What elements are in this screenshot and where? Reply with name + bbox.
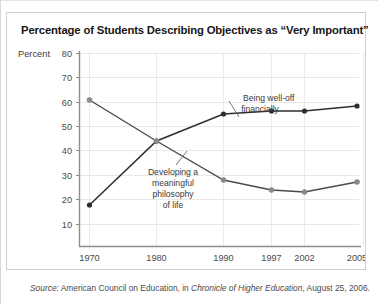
annotation-philosophy-line4: of life	[163, 200, 184, 210]
y-tick-label-20: 20	[62, 195, 72, 205]
source-note: Source: American Council on Education, i…	[30, 283, 370, 293]
x-tick-label-2005: 2005	[347, 253, 365, 263]
annotation-philosophy-line3: philosophy	[152, 189, 194, 199]
horizontal-gridlines	[79, 54, 359, 225]
y-tick-label-30: 30	[62, 171, 72, 181]
y-tick-label-70: 70	[62, 73, 72, 83]
x-tick-label-1997: 1997	[261, 253, 281, 263]
annotation-philosophy-line2: meaningful	[152, 178, 194, 188]
source-body-2: , August 25, 2006.	[302, 283, 370, 293]
source-label: Source:	[30, 283, 59, 293]
y-axis-title: Percent	[18, 49, 50, 59]
leader-line-being-well-off	[229, 101, 239, 117]
x-axis-title: Year	[211, 267, 230, 269]
page-left-rule	[0, 0, 1, 304]
line-chart-plot: Percent 80 70 60 50 40 30 20 10 1970 198…	[7, 13, 365, 269]
x-tick-label-2002: 2002	[294, 253, 314, 263]
x-tick-label-1980: 1980	[146, 253, 166, 263]
y-tick-label-10: 10	[62, 220, 72, 230]
y-tick-label-40: 40	[62, 146, 72, 156]
annotation-being-well-off-line1: Being well-off	[243, 93, 295, 103]
y-tick-label-60: 60	[62, 98, 72, 108]
source-body-1: American Council on Education, in	[59, 283, 191, 293]
source-publication: Chronicle of Higher Education	[191, 283, 302, 293]
y-tick-label-80: 80	[62, 49, 72, 59]
x-tick-label-1990: 1990	[213, 253, 233, 263]
y-tick-marks	[76, 54, 79, 225]
annotation-philosophy-of-life: Developing a meaningful philosophy of li…	[148, 167, 198, 210]
y-tick-label-50: 50	[62, 122, 72, 132]
annotation-philosophy-line1: Developing a	[148, 167, 198, 177]
x-tick-label-1970: 1970	[79, 253, 99, 263]
chart-figure: Percentage of Students Describing Object…	[6, 12, 366, 270]
vertical-gridlines	[90, 53, 364, 246]
page-top-rule	[0, 0, 378, 1]
annotation-being-well-off-line2: financially	[241, 104, 279, 114]
